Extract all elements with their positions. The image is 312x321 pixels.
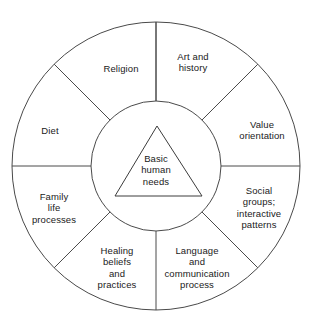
sector-divider [202, 64, 258, 120]
sector-label-language-communication: Language and communication process [164, 245, 229, 291]
core-label: Basic human needs [141, 153, 171, 187]
sector-label-family-life-processes: Family life processes [32, 191, 76, 225]
sector-label-religion: Religion [103, 63, 138, 74]
sector-label-art-and-history: Art and history [177, 51, 208, 74]
sector-divider [54, 64, 110, 120]
sector-label-value-orientation: Value orientation [239, 119, 284, 142]
sector-label-healing-beliefs: Healing beliefs and practices [98, 245, 137, 291]
sector-label-social-groups: Social groups; interactive patterns [237, 185, 281, 231]
culture-wheel-diagram: Art and historyValue orientationSocial g… [0, 0, 312, 321]
sector-label-diet: Diet [41, 125, 58, 136]
